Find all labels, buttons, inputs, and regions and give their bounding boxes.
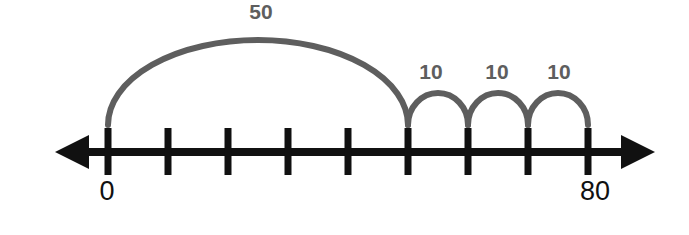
axis-label-end: 80 (580, 176, 610, 206)
jump-label-10-first: 10 (419, 60, 442, 83)
jump-label-10-third: 10 (547, 60, 570, 83)
axis-label-start: 0 (99, 176, 114, 206)
jump-label-10-second: 10 (485, 60, 508, 83)
jump-arc-60-to-70 (468, 93, 528, 125)
jump-arcs-group (108, 40, 588, 125)
jump-label-50: 50 (249, 0, 272, 23)
number-line-svg: 50 10 10 10 0 80 (0, 0, 689, 235)
jump-arc-70-to-80 (528, 93, 588, 125)
axis-arrow-left-icon (55, 135, 89, 169)
jump-arc-0-to-50 (108, 40, 408, 125)
axis-arrow-right-icon (621, 135, 655, 169)
number-line-figure: 50 10 10 10 0 80 (0, 0, 689, 235)
jump-arc-50-to-60 (408, 93, 468, 125)
axis-group (55, 135, 655, 169)
